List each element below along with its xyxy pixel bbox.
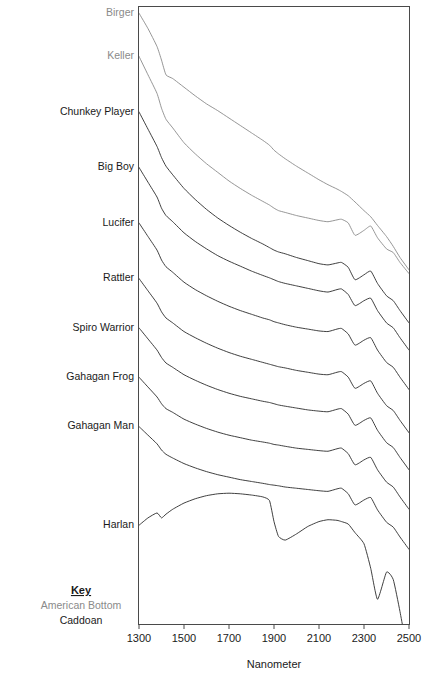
- x-tick-label-1300: 1300: [127, 632, 151, 644]
- series-label-spiro-warrior: Spiro Warrior: [73, 321, 135, 333]
- series-label-lucifer: Lucifer: [102, 216, 134, 228]
- x-axis-title: Nanometer: [247, 658, 302, 670]
- x-tick-label-1500: 1500: [172, 632, 196, 644]
- key-title: Key: [71, 584, 92, 596]
- series-label-big-boy: Big Boy: [98, 160, 135, 172]
- x-tick-label-2300: 2300: [352, 632, 376, 644]
- x-tick-label-2100: 2100: [307, 632, 331, 644]
- series-label-keller: Keller: [107, 49, 134, 61]
- series-label-rattler: Rattler: [103, 271, 134, 283]
- x-tick-label-2500: 2500: [397, 632, 421, 644]
- x-tick-label-1900: 1900: [262, 632, 286, 644]
- spectral-reflectance-chart: 1300150017001900210023002500 Nanometer B…: [0, 0, 429, 699]
- series-label-gahagan-man: Gahagan Man: [67, 419, 134, 431]
- key-entry-caddoan: Caddoan: [60, 614, 103, 626]
- series-label-harlan: Harlan: [103, 518, 134, 530]
- series-label-gahagan-frog: Gahagan Frog: [66, 370, 134, 382]
- x-tick-label-1700: 1700: [217, 632, 241, 644]
- series-label-chunkey-player: Chunkey Player: [60, 105, 135, 117]
- key-entry-american-bottom: American Bottom: [41, 599, 122, 611]
- series-label-birger: Birger: [106, 6, 135, 18]
